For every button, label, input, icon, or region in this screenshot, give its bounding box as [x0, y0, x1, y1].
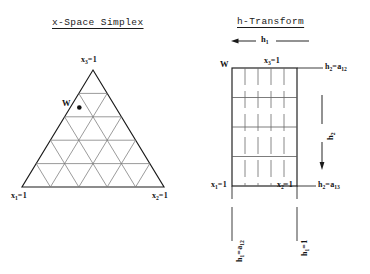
h-transform-bottom-left-label: x1=1 [211, 181, 227, 189]
h-transform-leader-lines [232, 68, 323, 241]
h1-axis-arrow [231, 39, 309, 44]
h-blv-var: h [235, 258, 244, 262]
h-transform-bottom-right-inner-label: x2=1 [277, 181, 293, 189]
h-top-outer-sub: 2 [329, 66, 332, 72]
h-blv-eq: = [235, 250, 244, 255]
simplex-vertex-right-label: x2=1 [152, 192, 168, 200]
h-blv-sub: 1 [239, 255, 245, 258]
h-transform-corner-w-label: W [220, 60, 229, 69]
h-top-inner-value: 1 [276, 56, 280, 65]
h-transform-bottom-right-vertical-label: h1=1 [301, 240, 309, 256]
simplex-point-w-marker [77, 105, 82, 110]
simplex-outline [22, 70, 164, 187]
simplex-vertex-top-value: 1 [93, 55, 97, 64]
simplex-vertex-right-value: 1 [164, 191, 168, 200]
h-transform-top-outer-label: h2=a12 [325, 63, 347, 71]
simplex-vertex-left-label: x1=1 [11, 192, 27, 200]
h-brv-eq: = [300, 244, 309, 249]
h-transform-bottom-right-outer-label: h2=a13 [318, 181, 340, 189]
simplex-vertex-top-sub: 3 [85, 59, 88, 65]
h2-axis-label: h2 [326, 132, 335, 140]
h-brv-value: 1 [300, 240, 309, 244]
h-brv-sub: 1 [304, 249, 310, 252]
figure-vector-layer [0, 0, 370, 274]
simplex-grid-horizontal [36, 93, 150, 163]
h-br-sub: 2 [281, 184, 284, 190]
simplex-vertex-left-value: 1 [23, 191, 27, 200]
h-blv-value: a [235, 246, 244, 250]
simplex-triangle-group [22, 70, 164, 187]
h-transform-rect-group [232, 68, 297, 186]
h2-axis-arrow [320, 95, 325, 170]
h-brv-var: h [300, 252, 309, 256]
h-top-inner-sub: 3 [268, 60, 271, 66]
h-transform-grid-horizontal [232, 98, 297, 157]
h1-axis-sub: 1 [266, 39, 269, 45]
h2-axis-var: h [325, 135, 335, 140]
h-bl-value: 1 [223, 180, 227, 189]
h1-axis-label: h1 [261, 35, 269, 44]
h2-axis-sub: 2 [330, 132, 336, 135]
h-blv-value-sub: 12 [239, 240, 245, 246]
simplex-vertex-left-sub: 1 [15, 195, 18, 201]
h-bro-value-sub: 13 [334, 184, 340, 190]
simplex-vertex-right-sub: 2 [156, 195, 159, 201]
h-transform-top-inner-label: x3=1 [264, 57, 280, 65]
h-bro-sub: 2 [322, 184, 325, 190]
figure-canvas: x-Space Simplex h-Transform [0, 0, 370, 274]
simplex-vertex-top-label: x3=1 [81, 56, 97, 64]
h-top-outer-value-sub: 12 [341, 66, 347, 72]
h-transform-bottom-left-vertical-label: h1=a12 [236, 240, 244, 262]
h-bl-sub: 1 [215, 184, 218, 190]
simplex-point-w-label: W [62, 99, 71, 108]
h-br-value: 1 [289, 180, 293, 189]
